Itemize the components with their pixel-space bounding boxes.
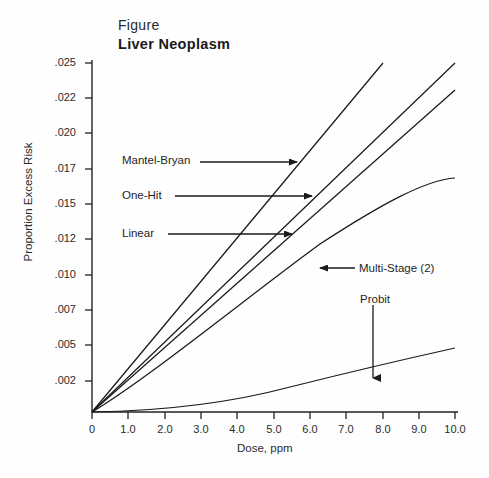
y-tick-label: .017 — [34, 162, 76, 174]
x-tick-label: 6.0 — [295, 423, 325, 435]
x-tick-label: 1.0 — [113, 423, 143, 435]
y-tick-label: .015 — [34, 197, 76, 209]
series-curve-multi-stage — [92, 178, 455, 412]
x-tick-label: 10.0 — [438, 423, 472, 435]
x-tick-label: 8.0 — [368, 423, 398, 435]
y-tick-label: .020 — [34, 126, 76, 138]
figure-container: Figure Liver Neoplasm — [0, 0, 489, 478]
series-label-probit: Probit — [360, 293, 390, 305]
x-tick-label: 5.0 — [259, 423, 289, 435]
y-tick-label: .005 — [34, 338, 76, 350]
x-axis-title: Dose, ppm — [237, 442, 293, 454]
x-tick-label: 7.0 — [331, 423, 361, 435]
y-axis-title: Proportion Excess Risk — [22, 122, 34, 282]
y-tick-label: .025 — [34, 56, 76, 68]
series-label-mantel-bryan: Mantel-Bryan — [122, 154, 190, 166]
y-tick-label: .012 — [34, 232, 76, 244]
y-tick-label: .007 — [34, 303, 76, 315]
series-label-linear: Linear — [122, 227, 154, 239]
y-tick-label: .010 — [34, 268, 76, 280]
x-tick-label: 3.0 — [186, 423, 216, 435]
series-curve-linear — [92, 90, 455, 412]
series-label-multi-stage: Multi-Stage (2) — [359, 262, 434, 274]
x-tick-label: 0 — [77, 423, 107, 435]
x-tick-label: 2.0 — [150, 423, 180, 435]
series-label-one-hit: One-Hit — [122, 189, 162, 201]
x-tick-label: 9.0 — [404, 423, 434, 435]
y-tick-label: .002 — [34, 374, 76, 386]
x-tick-label: 4.0 — [222, 423, 252, 435]
x-axis — [92, 412, 458, 419]
y-axis — [85, 60, 92, 412]
series-curve-probit — [92, 348, 455, 412]
y-tick-label: .022 — [34, 91, 76, 103]
